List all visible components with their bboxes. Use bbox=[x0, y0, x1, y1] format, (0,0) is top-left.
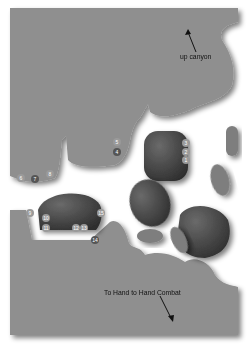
boulder-1 bbox=[144, 131, 188, 181]
rock-a bbox=[226, 126, 238, 156]
boulder-2 bbox=[123, 174, 177, 233]
route-marker-13: 13 bbox=[80, 224, 88, 232]
route-marker-1: 1 bbox=[182, 156, 190, 164]
route-marker-15: 15 bbox=[97, 209, 105, 217]
up-canyon-label: up canyon bbox=[180, 52, 211, 61]
route-marker-5: 5 bbox=[113, 138, 121, 146]
route-marker-11: 11 bbox=[42, 224, 50, 232]
route-marker-2: 2 bbox=[182, 148, 190, 156]
route-marker-9: 9 bbox=[26, 209, 34, 217]
route-marker-10: 10 bbox=[42, 214, 50, 222]
rock-b bbox=[207, 162, 233, 198]
rock-c bbox=[137, 229, 163, 243]
combat-direction-label: To Hand to Hand Combat bbox=[104, 288, 181, 297]
route-marker-3: 3 bbox=[182, 139, 190, 147]
route-marker-14: 14 bbox=[91, 236, 99, 244]
route-marker-6: 6 bbox=[17, 174, 25, 182]
route-marker-4: 4 bbox=[113, 148, 121, 156]
route-marker-7: 7 bbox=[31, 175, 39, 183]
upper-ground bbox=[10, 8, 238, 182]
route-marker-12: 12 bbox=[72, 224, 80, 232]
route-marker-8: 8 bbox=[46, 170, 54, 178]
